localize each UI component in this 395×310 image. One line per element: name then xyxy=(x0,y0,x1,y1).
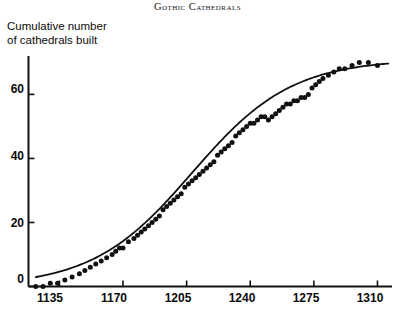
data-points xyxy=(33,60,380,289)
data-point xyxy=(48,281,53,286)
data-point xyxy=(211,159,216,164)
data-point xyxy=(320,76,325,81)
data-point xyxy=(375,63,380,68)
data-point xyxy=(157,214,162,219)
data-point xyxy=(33,284,38,289)
data-point xyxy=(82,268,87,273)
chart-figure: Gothic Cathedrals Cumulative number of c… xyxy=(0,0,395,310)
data-point xyxy=(88,265,93,270)
logistic-fit-curve xyxy=(36,64,389,278)
data-point xyxy=(331,70,336,75)
data-point xyxy=(306,92,311,97)
data-point xyxy=(366,60,371,65)
data-point xyxy=(55,281,60,286)
data-point xyxy=(62,278,67,283)
data-point xyxy=(179,191,184,196)
plot-area xyxy=(0,0,395,310)
data-point xyxy=(121,246,126,251)
data-point xyxy=(104,255,109,260)
axes xyxy=(29,56,393,287)
data-point xyxy=(41,284,46,289)
data-point xyxy=(230,140,235,145)
data-point xyxy=(326,73,331,78)
data-point xyxy=(99,258,104,263)
data-point xyxy=(93,262,98,267)
data-point xyxy=(342,66,347,71)
data-point xyxy=(350,63,355,68)
data-point xyxy=(126,239,131,244)
data-point xyxy=(357,60,362,65)
data-point xyxy=(337,66,342,71)
data-point xyxy=(70,274,75,279)
data-point xyxy=(77,271,82,276)
